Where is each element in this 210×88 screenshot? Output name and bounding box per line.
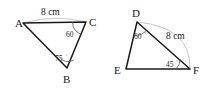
vertex-label-d: D [132, 7, 140, 19]
angle-label-b-value: 75 [55, 54, 63, 63]
triangle-def-outline [126, 22, 190, 69]
geometry-figure: A C B 8 cm 60 ° 75 ° [0, 0, 210, 88]
angle-label-d-value: 60 [134, 32, 142, 41]
vertex-label-e: E [114, 64, 121, 76]
angle-label-c-degree: ° [77, 29, 79, 34]
angle-label-f-degree: ° [177, 59, 179, 64]
angle-label-c-value: 60 [66, 30, 74, 39]
angle-label-d-degree: ° [145, 31, 147, 36]
angle-label-d: 60 ° [134, 31, 147, 41]
figure-canvas: A C B 8 cm 60 ° 75 ° [0, 0, 210, 88]
angle-label-f-value: 45 [166, 60, 174, 69]
triangle-abc-group: A C B 8 cm 60 ° 75 ° [15, 7, 96, 85]
vertex-label-a: A [15, 17, 23, 29]
vertex-label-b: B [63, 73, 70, 85]
angle-label-b-degree: ° [66, 53, 68, 58]
side-length-label-ac: 8 cm [41, 7, 60, 17]
vertex-label-f: F [193, 64, 199, 76]
side-length-label-df: 8 cm [166, 31, 185, 41]
triangle-def-group: D E F 8 cm 60 ° 45 ° [114, 7, 199, 76]
vertex-label-c: C [89, 16, 96, 28]
angle-label-c: 60 ° [66, 29, 79, 39]
angle-label-f: 45 ° [166, 59, 179, 69]
